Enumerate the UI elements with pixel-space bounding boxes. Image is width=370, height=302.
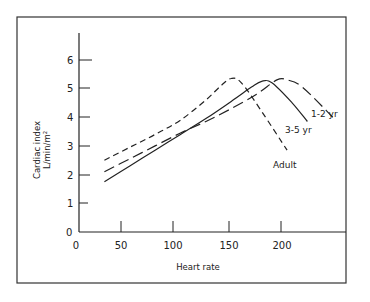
x-tick-label: 50 — [115, 240, 128, 251]
x-ticks — [121, 221, 281, 232]
x-axis-title: Heart rate — [176, 262, 220, 272]
y-tick-label: 1 — [67, 198, 73, 209]
x-tick-labels: 0 50 100 150 200 — [73, 240, 292, 251]
x-tick-label: 200 — [272, 240, 291, 251]
y-axis-title: Cardiac index L/min/m² — [32, 121, 52, 179]
series-label-adult: Adult — [273, 160, 297, 170]
y-ticks — [79, 60, 92, 203]
y-tick-label: 6 — [67, 55, 73, 66]
series-label-1-2-yr: 1-2 yr — [311, 109, 338, 119]
y-tick-label: 2 — [67, 170, 73, 181]
y-axis-title-line1: Cardiac index — [32, 121, 42, 179]
y-tick-label: 4 — [67, 112, 73, 123]
y-axis-title-line2: L/min/m² — [42, 131, 52, 169]
curve-adult — [104, 78, 287, 160]
y-tick-label: 0 — [66, 227, 72, 238]
x-tick-label: 100 — [163, 240, 182, 251]
cardiac-index-chart: 0 1 2 3 4 5 6 0 50 100 150 200 Heart rat… — [0, 0, 370, 302]
series-label-3-5-yr: 3-5 yr — [285, 125, 312, 135]
y-tick-label: 3 — [67, 141, 73, 152]
y-tick-label: 5 — [67, 83, 73, 94]
x-tick-label: 150 — [219, 240, 238, 251]
x-tick-label: 0 — [73, 240, 79, 251]
y-tick-labels: 0 1 2 3 4 5 6 — [66, 55, 73, 238]
